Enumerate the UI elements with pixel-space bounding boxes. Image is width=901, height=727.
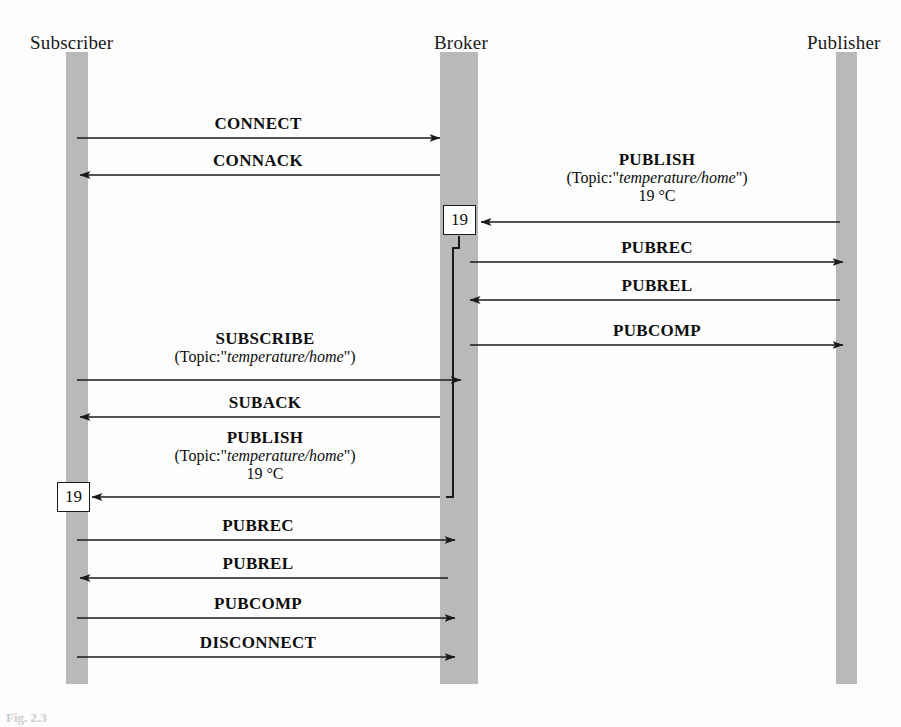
message-label-publish-publisher-text: PUBLISH [566, 150, 747, 169]
message-label-suback-text: SUBACK [229, 393, 302, 412]
figure-caption-label: Fig. 2.3 [6, 710, 47, 725]
message-label-pubcomp-publisher-text: PUBCOMP [613, 321, 701, 340]
message-label-connect-text: CONNECT [214, 114, 301, 133]
sequence-diagram-figure: Subscriber Broker Publisher [0, 0, 901, 727]
message-label-publish-publisher: PUBLISH (Topic:"temperature/home") 19 °C [566, 150, 747, 205]
payload-box-subscriber-value: 19 [65, 487, 82, 507]
lifeline-bar-subscriber [66, 52, 88, 684]
topic-value: temperature/home [619, 169, 736, 186]
lifeline-bar-broker [440, 52, 478, 684]
message-label-pubrec-publisher-text: PUBREC [621, 238, 693, 257]
message-label-pubrel-subscriber-text: PUBREL [223, 554, 294, 573]
topic-prefix: (Topic:" [566, 169, 619, 186]
message-label-connack-text: CONNACK [213, 151, 303, 170]
topic-value: temperature/home [227, 348, 344, 365]
message-label-pubcomp-subscriber: PUBCOMP [214, 594, 302, 613]
lifeline-label-publisher: Publisher [807, 32, 881, 54]
message-label-publish-subscriber-topic: (Topic:"temperature/home") [174, 447, 355, 465]
topic-suffix: ") [344, 348, 356, 365]
message-label-pubrec-publisher: PUBREC [621, 238, 693, 257]
message-label-connect: CONNECT [214, 114, 301, 133]
message-label-publish-subscriber: PUBLISH (Topic:"temperature/home") 19 °C [174, 428, 355, 483]
message-label-publish-subscriber-value: 19 °C [174, 465, 355, 483]
message-label-publish-subscriber-text: PUBLISH [174, 428, 355, 447]
message-label-subscribe: SUBSCRIBE (Topic:"temperature/home") [174, 329, 355, 366]
lifeline-bar-publisher [836, 52, 857, 684]
topic-suffix: ") [736, 169, 748, 186]
message-label-connack: CONNACK [213, 151, 303, 170]
message-label-pubrel-subscriber: PUBREL [223, 554, 294, 573]
message-label-disconnect: DISCONNECT [200, 633, 316, 652]
lifeline-label-subscriber: Subscriber [30, 32, 113, 54]
topic-prefix: (Topic:" [174, 447, 227, 464]
message-label-pubcomp-publisher: PUBCOMP [613, 321, 701, 340]
message-label-pubcomp-subscriber-text: PUBCOMP [214, 594, 302, 613]
topic-prefix: (Topic:" [174, 348, 227, 365]
message-label-suback: SUBACK [229, 393, 302, 412]
message-label-pubrec-subscriber-text: PUBREC [222, 516, 294, 535]
message-label-pubrel-publisher-text: PUBREL [622, 276, 693, 295]
message-label-publish-publisher-value: 19 °C [566, 187, 747, 205]
payload-box-broker: 19 [443, 205, 476, 235]
message-label-disconnect-text: DISCONNECT [200, 633, 316, 652]
message-label-subscribe-text: SUBSCRIBE [174, 329, 355, 348]
payload-box-broker-value: 19 [451, 210, 468, 230]
topic-value: temperature/home [227, 447, 344, 464]
message-label-pubrec-subscriber: PUBREC [222, 516, 294, 535]
figure-caption: Fig. 2.3 [6, 710, 47, 726]
message-label-pubrel-publisher: PUBREL [622, 276, 693, 295]
lifeline-label-broker: Broker [434, 32, 488, 54]
message-label-publish-publisher-topic: (Topic:"temperature/home") [566, 169, 747, 187]
payload-box-subscriber: 19 [57, 482, 90, 512]
topic-suffix: ") [344, 447, 356, 464]
message-label-subscribe-topic: (Topic:"temperature/home") [174, 348, 355, 366]
